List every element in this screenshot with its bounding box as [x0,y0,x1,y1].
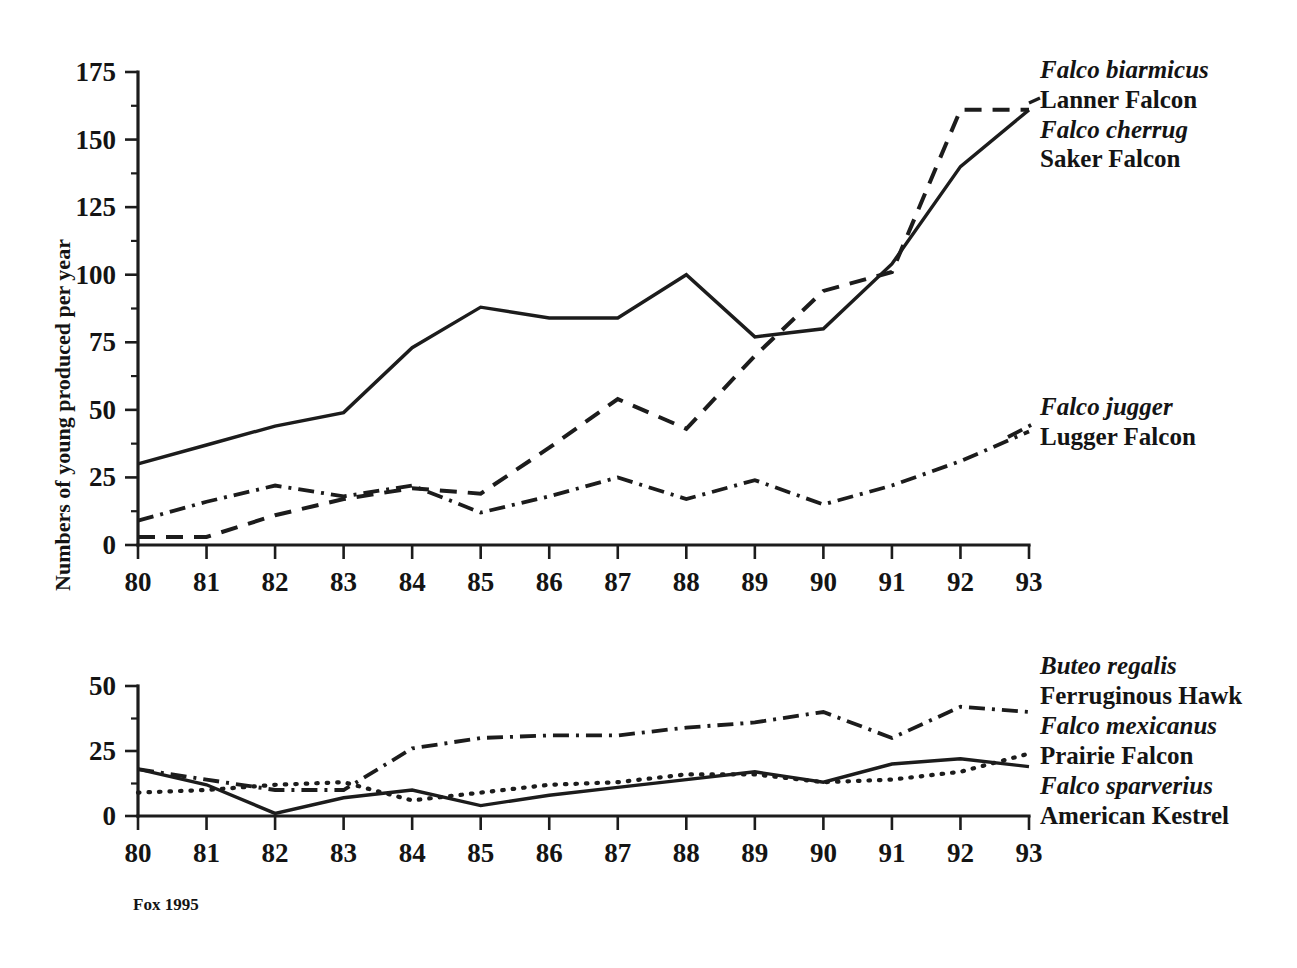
series-line-lanner-falcon [138,110,1029,537]
x-ticklabel: 80 [125,838,152,868]
x-ticklabel: 85 [467,567,494,597]
legend-bottom: Buteo regalis Ferruginous Hawk Falco mex… [1039,652,1242,829]
bottom-chart: 02550 8081828384858687888990919293 [89,671,1043,868]
x-ticklabel: 81 [193,838,220,868]
legend-top-primary: Falco biarmicus Lanner Falcon Falco cher… [1039,56,1209,172]
legend-lugger-leader [1008,422,1037,437]
x-ticklabel: 93 [1016,838,1043,868]
x-ticklabel: 93 [1016,567,1043,597]
y-ticklabel: 0 [103,530,117,560]
x-ticklabel: 89 [741,567,768,597]
x-ticklabel: 88 [673,838,700,868]
y-ticklabel: 0 [103,801,117,831]
y-ticklabel: 25 [89,736,116,766]
legend-lugger-common: Lugger Falcon [1040,423,1196,450]
source-note: Fox 1995 [133,895,199,914]
y-ticklabel: 75 [89,327,116,357]
top-chart-x-ticks [138,545,1029,559]
x-ticklabel: 88 [673,567,700,597]
x-ticklabel: 91 [878,838,905,868]
x-ticklabel: 92 [947,838,974,868]
legend-saker-scientific: Falco cherrug [1039,116,1188,143]
x-ticklabel: 86 [536,567,563,597]
legend-kestrel-common: American Kestrel [1040,802,1229,829]
bottom-chart-y-ticks [125,686,138,816]
x-ticklabel: 82 [262,838,289,868]
top-chart-y-ticks [125,72,138,545]
x-ticklabel: 84 [399,838,426,868]
legend-lanner-scientific: Falco biarmicus [1039,56,1209,83]
legend-lugger-scientific: Falco jugger [1039,393,1173,420]
x-ticklabel: 90 [810,838,837,868]
y-ticklabel: 125 [76,192,117,222]
legend-saker-common: Saker Falcon [1040,145,1181,172]
top-chart-x-ticklabels: 8081828384858687888990919293 [125,567,1043,597]
x-ticklabel: 83 [330,838,357,868]
series-line-american-kestrel [138,759,1029,814]
series-line-saker-falcon [138,110,1029,464]
series-line-lugger-falcon [138,431,1029,520]
figure-container: Numbers of young produced per year 02550… [0,0,1297,968]
top-chart-series-group [138,110,1029,537]
y-ticklabel: 50 [89,671,116,701]
legend-lanner-common: Lanner Falcon [1040,86,1197,113]
legend-top-lugger: Falco jugger Lugger Falcon [1008,393,1196,450]
bottom-chart-y-ticklabels: 02550 [89,671,116,831]
x-ticklabel: 86 [536,838,563,868]
y-ticklabel: 25 [89,462,116,492]
legend-kestrel-scientific: Falco sparverius [1039,772,1213,799]
x-ticklabel: 84 [399,567,426,597]
legend-prairie-scientific: Falco mexicanus [1039,712,1217,739]
series-line-prairie-falcon [138,754,1029,801]
x-ticklabel: 82 [262,567,289,597]
x-ticklabel: 87 [604,567,631,597]
top-chart-y-ticklabels: 0255075100125150175 [76,57,117,560]
x-ticklabel: 89 [741,838,768,868]
y-ticklabel: 175 [76,57,117,87]
series-line-ferruginous-hawk [138,707,1029,790]
y-ticklabel: 50 [89,395,116,425]
bottom-chart-series-group [138,707,1029,814]
top-chart: Numbers of young produced per year 02550… [50,57,1043,597]
x-ticklabel: 81 [193,567,220,597]
legend-ferruginous-common: Ferruginous Hawk [1040,682,1242,709]
y-ticklabel: 150 [76,125,117,155]
x-ticklabel: 85 [467,838,494,868]
x-ticklabel: 87 [604,838,631,868]
legend-ferruginous-scientific: Buteo regalis [1039,652,1177,679]
x-ticklabel: 80 [125,567,152,597]
bottom-chart-x-ticks [138,816,1029,830]
y-ticklabel: 100 [76,260,117,290]
x-ticklabel: 91 [878,567,905,597]
top-chart-ylabel: Numbers of young produced per year [50,239,75,591]
legend-prairie-common: Prairie Falcon [1040,742,1194,769]
x-ticklabel: 90 [810,567,837,597]
x-ticklabel: 83 [330,567,357,597]
x-ticklabel: 92 [947,567,974,597]
bottom-chart-x-ticklabels: 8081828384858687888990919293 [125,838,1043,868]
top-legend-leader [1029,98,1040,103]
